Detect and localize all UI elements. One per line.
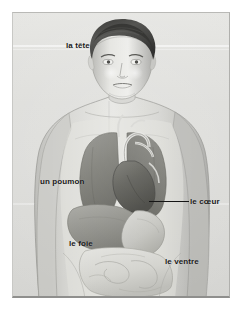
label-le-coeur: le cœur — [190, 197, 220, 206]
page-root: la tête un poumon le cœur le foie le ven… — [0, 0, 242, 312]
label-un-poumon: un poumon — [40, 177, 84, 186]
label-le-ventre: le ventre — [165, 257, 199, 266]
human-body-illustration — [13, 13, 230, 298]
head-portrait — [88, 19, 155, 99]
label-le-foie: le foie — [69, 239, 93, 248]
label-la-tete: la tête — [66, 41, 90, 50]
intestines-organ — [79, 248, 172, 298]
illustration-plate: la tête un poumon le cœur le foie le ven… — [12, 12, 230, 298]
leader-line-coeur — [149, 201, 189, 202]
